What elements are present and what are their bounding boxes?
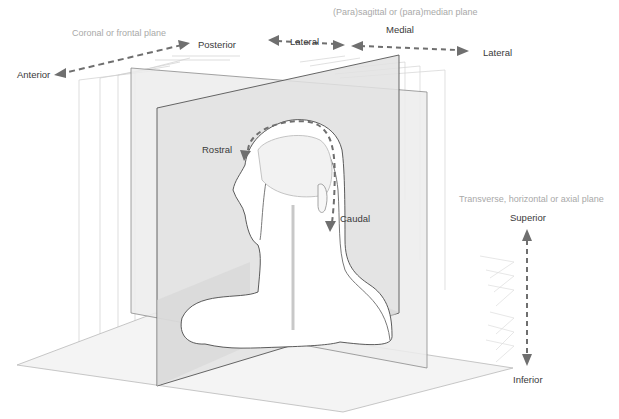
- arrowhead-medial-left-icon: [333, 40, 345, 50]
- coronal-plane-label: Coronal or frontal plane: [72, 29, 166, 38]
- lateral-right-label: Lateral: [483, 48, 512, 58]
- arrowhead-lateral-left-icon: [268, 35, 279, 46]
- anatomical-planes-diagram: Coronal or frontal plane (Para)sagittal …: [0, 0, 619, 419]
- rostral-label: Rostral: [202, 145, 232, 155]
- diagram-canvas: [0, 0, 619, 419]
- transverse-plane-label: Transverse, horizontal or axial plane: [459, 195, 604, 204]
- inferior-label: Inferior: [513, 375, 543, 385]
- arrowhead-anterior-icon: [54, 68, 66, 78]
- transverse-plane-ghosts: [480, 256, 514, 362]
- arrowhead-inferior-icon: [522, 354, 532, 366]
- medial-lateral-arrow-right: [360, 46, 458, 50]
- arrowhead-superior-icon: [522, 229, 532, 241]
- medial-label: Medial: [386, 25, 414, 35]
- sagittal-plane-label: (Para)sagittal or (para)median plane: [333, 8, 478, 17]
- posterior-label: Posterior: [198, 40, 236, 50]
- arrowhead-posterior-icon: [178, 40, 190, 50]
- superior-label: Superior: [510, 213, 546, 223]
- arrowhead-medial-right-icon: [351, 41, 363, 51]
- anterior-label: Anterior: [17, 70, 50, 80]
- arrowhead-lateral-right-icon: [457, 46, 469, 56]
- anterior-posterior-arrow: [64, 45, 182, 73]
- caudal-label: Caudal: [340, 214, 370, 224]
- lateral-left-label: Lateral: [290, 37, 319, 47]
